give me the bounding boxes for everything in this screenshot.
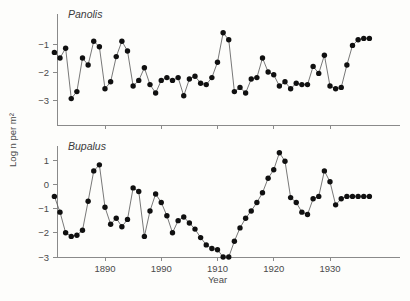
data-point	[74, 232, 79, 237]
data-point	[102, 205, 107, 210]
data-point	[153, 90, 158, 95]
data-point	[355, 194, 360, 199]
data-point	[209, 246, 214, 251]
x-tick-label: 1890	[94, 263, 115, 274]
data-point	[102, 86, 107, 91]
data-point	[316, 71, 321, 76]
data-point	[226, 37, 231, 42]
data-point	[299, 82, 304, 87]
x-tick-label: 1930	[319, 263, 340, 274]
data-point	[339, 85, 344, 90]
data-point	[136, 78, 141, 83]
data-point	[350, 43, 355, 48]
data-point	[277, 83, 282, 88]
data-point	[159, 200, 164, 205]
y-axis-title: Log n per m²	[7, 113, 18, 167]
series-line-bupalus	[54, 153, 369, 257]
population-time-series-figure: −1−2−3Panolis10−1−2−31890199019101920193…	[0, 0, 410, 301]
data-point	[282, 79, 287, 84]
data-point	[164, 75, 169, 80]
data-point	[52, 194, 57, 199]
data-point	[108, 222, 113, 227]
data-point	[69, 234, 74, 239]
data-point	[147, 208, 152, 213]
panel-panolis: −1−2−3Panolis	[38, 8, 400, 129]
data-point	[170, 230, 175, 235]
figure-canvas: −1−2−3Panolis10−1−2−31890199019101920193…	[0, 0, 410, 301]
data-point	[159, 78, 164, 83]
data-point	[271, 72, 276, 77]
data-point	[187, 76, 192, 81]
data-point	[254, 75, 259, 80]
data-point	[294, 200, 299, 205]
data-point	[181, 93, 186, 98]
data-point	[119, 224, 124, 229]
data-point	[80, 228, 85, 233]
data-point	[85, 199, 90, 204]
data-point	[277, 150, 282, 155]
data-point	[220, 30, 225, 35]
x-axis-title: Year	[208, 274, 227, 285]
data-point	[175, 218, 180, 223]
data-point	[243, 90, 248, 95]
data-point	[97, 162, 102, 167]
data-point	[226, 254, 231, 259]
data-point	[265, 175, 270, 180]
data-point	[344, 62, 349, 67]
data-point	[260, 55, 265, 60]
data-point	[204, 242, 209, 247]
y-tick-label: −3	[38, 95, 49, 106]
data-point	[69, 96, 74, 101]
data-point	[142, 65, 147, 70]
data-point	[119, 39, 124, 44]
data-point	[265, 69, 270, 74]
data-point	[333, 202, 338, 207]
data-point	[187, 220, 192, 225]
data-point	[310, 64, 315, 69]
data-point	[215, 60, 220, 65]
data-point	[136, 189, 141, 194]
data-point	[288, 86, 293, 91]
data-point	[254, 200, 259, 205]
panel-title: Bupalus	[68, 140, 107, 152]
data-point	[322, 53, 327, 58]
data-point	[181, 214, 186, 219]
data-point	[91, 168, 96, 173]
data-point	[209, 75, 214, 80]
data-point	[288, 195, 293, 200]
data-point	[367, 36, 372, 41]
panel-bupalus: 10−1−2−318901990191019201930Bupalus	[38, 140, 400, 274]
data-point	[232, 239, 237, 244]
data-point	[125, 217, 130, 222]
y-tick-label: 0	[44, 179, 49, 190]
x-tick-label: 1920	[263, 263, 284, 274]
data-point	[91, 39, 96, 44]
data-point	[114, 54, 119, 59]
data-point	[333, 86, 338, 91]
y-tick-label: −2	[38, 67, 49, 78]
data-point	[249, 76, 254, 81]
data-point	[130, 83, 135, 88]
data-point	[355, 37, 360, 42]
y-tick-label: −1	[38, 39, 49, 50]
data-point	[192, 74, 197, 79]
data-point	[57, 209, 62, 214]
x-tick-label: 1910	[207, 263, 228, 274]
x-tick-label: 1990	[151, 263, 172, 274]
data-point	[74, 89, 79, 94]
data-point	[198, 235, 203, 240]
data-point	[327, 179, 332, 184]
data-point	[339, 196, 344, 201]
data-point	[220, 254, 225, 259]
data-point	[97, 44, 102, 49]
data-point	[243, 216, 248, 221]
data-point	[153, 191, 158, 196]
y-tick-label: −1	[38, 203, 49, 214]
data-point	[215, 247, 220, 252]
data-point	[80, 55, 85, 60]
y-tick-label: −2	[38, 227, 49, 238]
data-point	[322, 168, 327, 173]
data-point	[327, 83, 332, 88]
data-point	[294, 81, 299, 86]
data-point	[204, 82, 209, 87]
